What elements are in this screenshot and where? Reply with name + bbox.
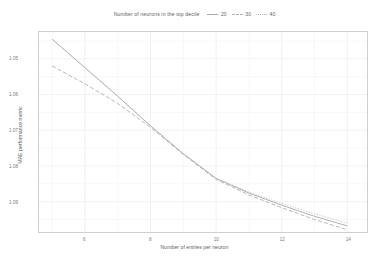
series-line-40 [52,39,347,223]
series-lines [52,39,347,230]
legend-entry-30[interactable]: 30 [232,11,251,17]
plot-area [38,31,368,233]
x-tick-label: 10 [214,237,219,242]
x-tick-label: 12 [280,237,285,242]
plot-svg [39,32,367,232]
legend-swatch-40 [256,14,267,15]
legend-swatch-20 [207,14,218,15]
x-tick-label: 14 [346,237,351,242]
y-tick-label: 1.09 [9,200,18,205]
grid-minor [39,32,367,232]
chart-figure: Number of neurons in the top decile 2030… [0,0,389,266]
x-tick-label: 6 [83,237,86,242]
y-axis-label: MAE performance metric [17,75,23,195]
legend-title: Number of neurons in the top decile [114,11,200,17]
x-tick-label: 8 [149,237,152,242]
y-tick-label: 1.05 [9,56,18,61]
legend-entry-40[interactable]: 40 [256,11,275,17]
grid-major [39,32,367,232]
x-axis-label: Number of entries per neuron [0,244,389,250]
legend-entry-20[interactable]: 20 [207,11,226,17]
chart-legend: Number of neurons in the top decile 2030… [0,11,389,17]
series-line-20 [52,39,347,226]
legend-label-30: 30 [245,11,251,17]
legend-label-40: 40 [270,11,276,17]
legend-swatch-30 [232,14,243,15]
legend-label-20: 20 [221,11,227,17]
